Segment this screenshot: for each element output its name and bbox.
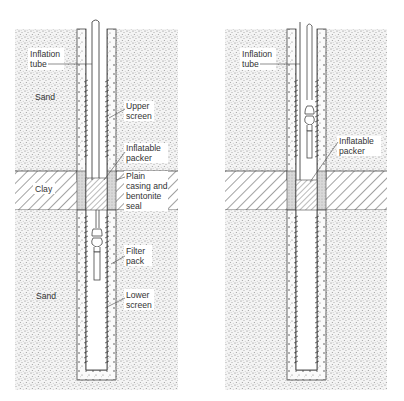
svg-text:seal: seal: [126, 201, 142, 211]
label-lower-screen-2: screen: [126, 300, 152, 310]
label-inflation-tube-right-2: tube: [242, 59, 259, 69]
bentonite-seal-right: [107, 171, 116, 210]
inflatable-packer-block-right: [296, 180, 317, 210]
svg-text:Inflation: Inflation: [30, 49, 60, 59]
label-inflation-tube-1: Inflation: [30, 49, 60, 59]
svg-text:tube: tube: [30, 59, 47, 69]
label-sand-upper: Sand: [35, 92, 55, 102]
label-inflatable-packer-1: Inflatable: [126, 143, 161, 153]
svg-text:Upper: Upper: [126, 101, 150, 111]
left-panel: Inflation tube Sand Upper screen Inflata…: [15, 20, 178, 390]
svg-text:casing and: casing and: [126, 181, 168, 191]
svg-text:Inflatable: Inflatable: [126, 143, 161, 153]
svg-text:pack: pack: [126, 256, 145, 266]
filter-pack-left: [77, 29, 86, 180]
label-filter-pack-1: Filter: [126, 246, 145, 256]
inflatable-packer-block: [86, 178, 107, 210]
label-inflatable-packer-right-1: Inflatable: [339, 136, 374, 146]
label-sand-lower: Sand: [36, 291, 56, 301]
svg-text:packer: packer: [126, 153, 152, 163]
label-inflation-tube-2: tube: [30, 59, 47, 69]
bentonite-seal-left: [77, 171, 86, 210]
label-plain-casing-1: Plain: [126, 171, 145, 181]
label-inflation-tube-right-1: Inflation: [242, 49, 272, 59]
label-lower-screen-1: Lower: [126, 290, 150, 300]
svg-text:screen: screen: [126, 300, 152, 310]
label-inflatable-packer-2: packer: [126, 153, 152, 163]
svg-text:Plain: Plain: [126, 171, 145, 181]
filter-pack-right: [107, 29, 116, 180]
label-plain-casing-3: bentonite: [126, 191, 162, 201]
svg-text:Inflation: Inflation: [242, 49, 272, 59]
well-packer-diagram: Inflation tube Sand Upper screen Inflata…: [0, 0, 404, 401]
label-plain-casing-4: seal: [126, 201, 142, 211]
label-filter-pack-2: pack: [126, 256, 145, 266]
right-panel: Inflation tube Inflatable packer: [225, 22, 387, 390]
svg-text:screen: screen: [126, 111, 152, 121]
svg-text:Inflatable: Inflatable: [339, 136, 374, 146]
label-inflatable-packer-right-2: packer: [339, 146, 365, 156]
svg-text:bentonite: bentonite: [126, 191, 162, 201]
label-clay: Clay: [35, 184, 53, 194]
svg-text:packer: packer: [339, 146, 365, 156]
label-plain-casing-2: casing and: [126, 181, 168, 191]
label-upper-screen-1: Upper: [126, 101, 150, 111]
svg-text:Lower: Lower: [126, 290, 150, 300]
label-upper-screen-2: screen: [126, 111, 152, 121]
svg-text:Filter: Filter: [126, 246, 145, 256]
svg-text:tube: tube: [242, 59, 259, 69]
